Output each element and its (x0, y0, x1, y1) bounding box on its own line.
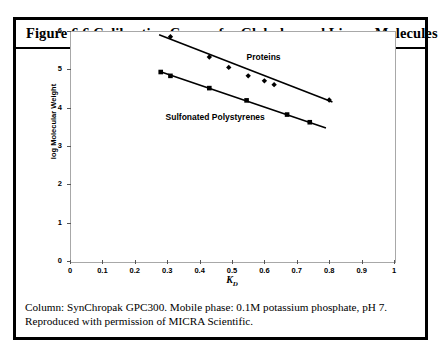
y-tick-mark (67, 108, 71, 109)
y-tick-mark (67, 184, 71, 185)
x-axis-title: KD (70, 274, 394, 288)
series-label-proteins: Proteins (247, 52, 281, 62)
x-tick-mark (362, 260, 363, 264)
y-tick-mark (67, 69, 71, 70)
x-tick-mark (200, 260, 201, 264)
x-tick-mark (394, 260, 395, 264)
y-tick-mark (67, 146, 71, 147)
y-tick-mark (67, 31, 71, 32)
x-tick-mark (297, 260, 298, 264)
y-tick-label: 1 (44, 219, 62, 227)
y-tick-label: 0 (44, 257, 62, 265)
figure-caption: Column: SynChropak GPC300. Mobile phase:… (25, 300, 417, 329)
x-axis-symbol: K (226, 274, 233, 285)
series-label-sulfonated-polystyrenes: Sulfonated Polystyrenes (166, 112, 265, 122)
y-tick-label: 6 (44, 27, 62, 35)
figure-frame: Figure 6.6 Calibration Curves for Globul… (13, 17, 428, 340)
y-tick-label: 2 (44, 180, 62, 188)
x-tick-mark (167, 260, 168, 264)
x-axis-subscript: D (233, 280, 238, 288)
x-tick-mark (232, 260, 233, 264)
x-tick-mark (70, 260, 71, 264)
plot-frame (70, 31, 396, 263)
x-tick-mark (102, 260, 103, 264)
y-tick-mark (67, 223, 71, 224)
y-axis-title: log Molecular Weight (49, 67, 58, 177)
x-tick-mark (264, 260, 265, 264)
x-tick-mark (329, 260, 330, 264)
chart-area: 0123456 00.10.20.30.40.50.60.70.80.91 lo… (44, 31, 417, 289)
x-tick-mark (135, 260, 136, 264)
